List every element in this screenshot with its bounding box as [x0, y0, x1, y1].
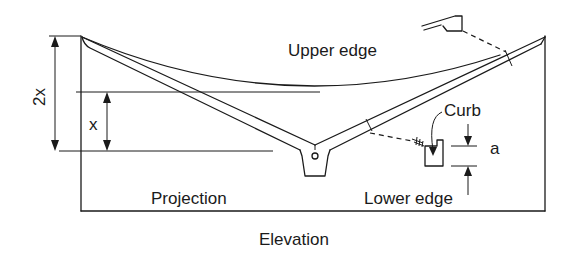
dimension-a-label: a — [490, 139, 500, 158]
lower-edge-label: Lower edge — [364, 189, 453, 208]
curb-label: Curb — [444, 101, 481, 120]
downpipe-funnel — [300, 145, 330, 176]
curb-detail — [412, 112, 443, 166]
dimension-2x-label: 2x — [30, 88, 49, 106]
dimension-x-label: x — [89, 115, 98, 134]
dimension-a-arrow — [451, 124, 477, 195]
upper-edge-label: Upper edge — [288, 41, 377, 60]
leader-lines — [370, 31, 506, 141]
left-gutter — [82, 37, 315, 150]
elevation-title: Elevation — [259, 230, 329, 249]
dimension-2x-arrow — [51, 36, 59, 151]
projection-label: Projection — [151, 189, 227, 208]
upper-edge-profile — [422, 16, 462, 31]
dimension-x-arrow — [103, 92, 111, 151]
elevation-diagram: 2x x — [0, 0, 577, 256]
